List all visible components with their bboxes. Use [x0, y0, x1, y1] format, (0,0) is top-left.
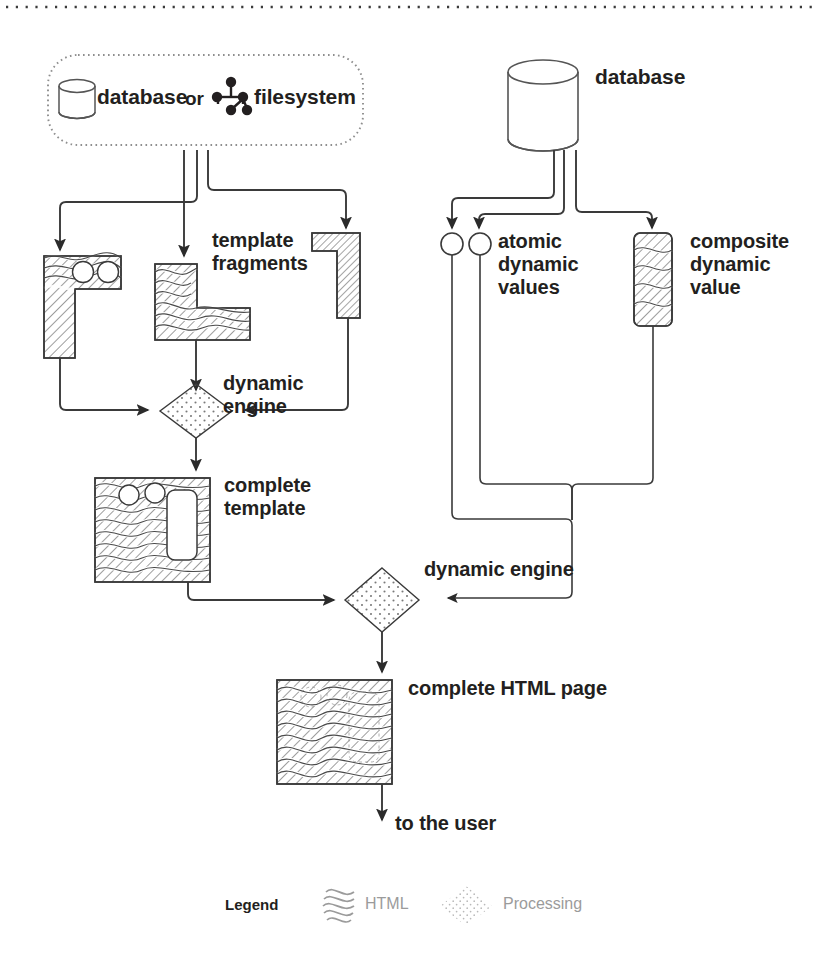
database-to-values-connectors	[452, 150, 652, 228]
composite-value-label-line2: dynamic	[690, 253, 770, 275]
template-fragments-label-line1: template	[212, 229, 293, 251]
complete-template-label-line2: template	[224, 497, 305, 519]
complete-html-page-shape	[277, 680, 392, 784]
legend-swatch-processing	[440, 886, 492, 926]
diagram-canvas: database or filesystem database template…	[0, 0, 817, 969]
complete-template-to-engine	[188, 582, 334, 600]
source-to-fragments-connectors	[60, 150, 346, 256]
template-fragment-2	[155, 264, 250, 340]
to-the-user-label: to the user	[395, 812, 496, 834]
dynamic-engine-bottom-shape	[345, 568, 419, 632]
complete-template-label-line1: complete	[224, 474, 311, 496]
right-database-label: database	[595, 66, 685, 88]
legend-item-label-html: HTML	[365, 895, 409, 913]
file-tree-icon	[212, 77, 252, 115]
dynamic-engine-bottom-label: dynamic engine	[424, 558, 574, 580]
legend-title: Legend	[225, 896, 278, 913]
dynamic-engine-top-label-line1: dynamic	[223, 372, 303, 394]
template-fragment-1	[44, 253, 121, 358]
atomic-values-label-line2: dynamic	[498, 253, 578, 275]
composite-value-label-line3: value	[690, 276, 741, 298]
complete-template-shape	[95, 478, 210, 582]
placeholder-circle-2	[145, 483, 165, 503]
dynamic-engine-top-shape	[160, 384, 232, 438]
template-fragment-3	[312, 233, 360, 318]
source-or-label: or	[185, 88, 204, 110]
source-filesystem-label: filesystem	[254, 86, 356, 108]
atomic-values-label-line3: values	[498, 276, 560, 298]
atomic-values-label-line1: atomic	[498, 230, 562, 252]
atomic-dynamic-values-shapes	[441, 233, 491, 255]
composite-value-label-line1: composite	[690, 230, 789, 252]
composite-dynamic-value-shape	[634, 233, 672, 326]
database-cylinder-icon-left	[59, 80, 95, 119]
template-fragments-label-line2: fragments	[212, 252, 308, 274]
source-database-label: database	[97, 86, 187, 108]
legend-item-label-processing: Processing	[503, 895, 582, 913]
database-cylinder-icon-right	[508, 60, 578, 151]
placeholder-circle-1	[119, 485, 139, 505]
values-merge-trunk	[448, 255, 653, 598]
placeholder-rect	[167, 490, 197, 560]
complete-html-page-label: complete HTML page	[408, 677, 607, 699]
legend-swatch-html	[323, 890, 354, 922]
dynamic-engine-top-label-line2: engine	[223, 395, 287, 417]
